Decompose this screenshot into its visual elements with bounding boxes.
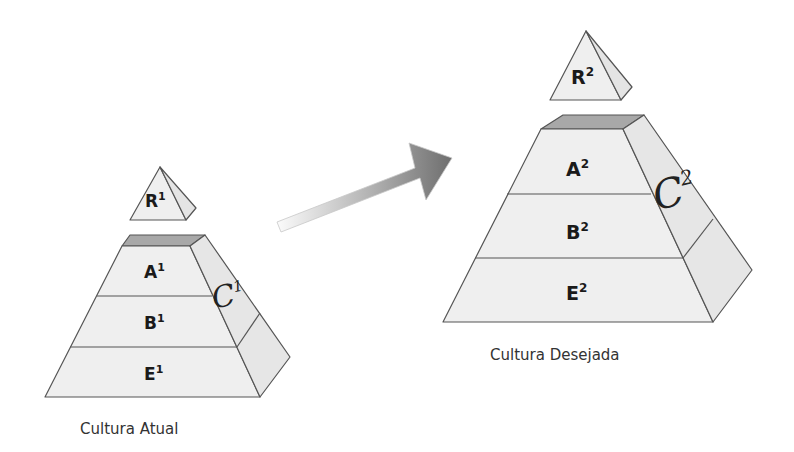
caption-desired-culture: Cultura Desejada — [490, 346, 620, 364]
transition-arrow — [277, 143, 452, 232]
culture-diagram: R1 A1 B1 E1 C1 Cultura Atual R2 A2 B2 E2… — [0, 0, 794, 452]
desired-culture-pyramid — [443, 31, 752, 322]
caption-current-culture: Cultura Atual — [80, 420, 178, 438]
current-culture-pyramid — [45, 167, 290, 397]
